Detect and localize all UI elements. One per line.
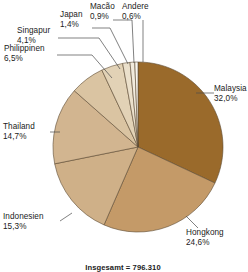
slice-label-andere-name: Andere [122,2,149,12]
slice-label-hongkong: Hongkong 24,6% [186,228,224,247]
leader-line-hongkong [186,216,198,228]
slice-label-indonesien-name: Indonesien [3,212,44,222]
slice-label-japan-value: 1,4% [60,20,83,30]
slice-label-macao-name: Macão [90,2,115,12]
slice-label-macao-value: 0,9% [90,12,115,22]
slice-label-singapur: Singapur 4,1% [17,26,50,45]
slice-label-philippinen-value: 6,5% [4,54,45,64]
slice-label-hongkong-value: 24,6% [186,238,224,248]
slice-label-malaysia-value: 32,0% [214,94,247,104]
slice-label-thailand-value: 14,7% [3,132,35,142]
slice-label-thailand: Thailand 14,7% [3,122,35,141]
slice-label-philippinen: Philippinen 6,5% [4,44,45,63]
leader-line-japan [92,28,128,64]
chart-total-caption: Insgesamt = 796.310 [0,263,246,272]
slice-label-malaysia: Malaysia 32,0% [214,84,247,103]
slice-label-singapur-name: Singapur [17,26,50,36]
slice-label-hongkong-name: Hongkong [186,228,224,238]
slice-label-philippinen-name: Philippinen [4,44,45,54]
slice-label-malaysia-name: Malaysia [214,84,247,94]
slice-label-japan: Japan 1,4% [60,10,83,29]
slice-label-indonesien-value: 15,3% [3,222,44,232]
slice-label-japan-name: Japan [60,10,83,20]
slice-label-andere-value: 0,6% [122,12,149,22]
slice-label-indonesien: Indonesien 15,3% [3,212,44,231]
slice-label-andere: Andere 0,6% [122,2,149,21]
slice-label-macao: Macão 0,9% [90,2,115,21]
slice-label-thailand-name: Thailand [3,122,35,132]
leader-line-singapur [58,38,120,69]
leader-line-macao [113,20,134,63]
leader-line-indonesien [60,213,72,221]
pie-slice-group [53,62,223,232]
